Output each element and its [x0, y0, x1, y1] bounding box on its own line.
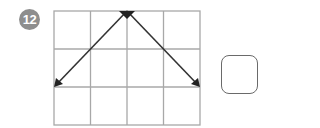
arrow-left	[56, 11, 127, 85]
grid-lines	[54, 11, 200, 125]
arrow-right	[127, 11, 198, 85]
answer-box[interactable]	[221, 55, 258, 94]
